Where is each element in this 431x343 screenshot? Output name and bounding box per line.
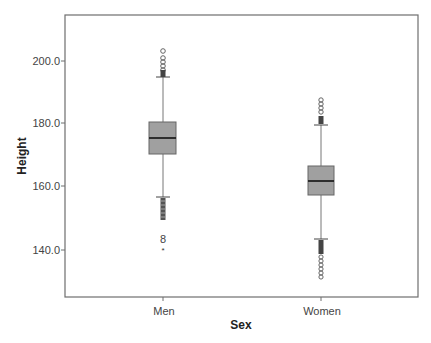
x-axis-title: Sex	[230, 318, 252, 332]
plot-frame	[65, 15, 418, 297]
x-axis: Men Women	[153, 297, 341, 317]
outlier-case-label: 8	[160, 233, 166, 245]
y-tick-label: 140.0	[32, 244, 60, 256]
x-tick-label: Women	[303, 305, 341, 317]
box-men: 8 *	[149, 49, 176, 255]
y-tick-label: 180.0	[32, 117, 60, 129]
extreme-value-marker: *	[161, 246, 164, 255]
y-axis: 200.0 180.0 160.0 140.0	[32, 55, 65, 256]
y-tick-label: 160.0	[32, 180, 60, 192]
box-plot-chart: 200.0 180.0 160.0 140.0 Height Men Women…	[0, 0, 431, 343]
x-tick-label: Men	[153, 305, 174, 317]
y-axis-title: Height	[15, 137, 29, 174]
y-tick-label: 200.0	[32, 55, 60, 67]
box-women	[308, 98, 334, 279]
